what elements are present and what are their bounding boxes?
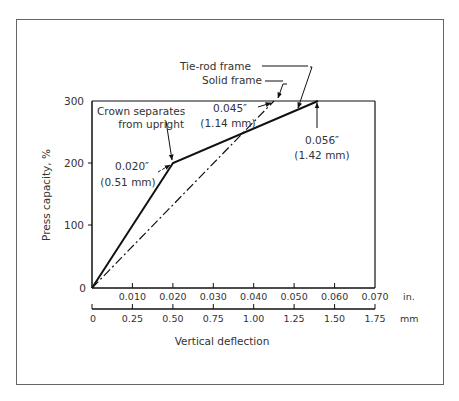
svg-text:0.020: 0.020 bbox=[159, 291, 186, 302]
svg-text:0.010: 0.010 bbox=[119, 291, 146, 302]
svg-text:1.50: 1.50 bbox=[324, 313, 345, 324]
svg-text:0.060: 0.060 bbox=[321, 291, 348, 302]
svg-text:0.040: 0.040 bbox=[240, 291, 267, 302]
annotation-045: 0.045″ bbox=[213, 102, 247, 114]
y-tick-100: 100 bbox=[64, 219, 84, 231]
press-deflection-chart: 300 200 100 0 Press capacity, % 0.010 0.… bbox=[0, 0, 459, 401]
svg-text:0.050: 0.050 bbox=[280, 291, 307, 302]
svg-text:0.50: 0.50 bbox=[162, 313, 183, 324]
svg-text:0.25: 0.25 bbox=[122, 313, 143, 324]
svg-text:1.00: 1.00 bbox=[243, 313, 264, 324]
annotation-045-mm: (1.14 mm) bbox=[200, 117, 255, 129]
svg-text:1.25: 1.25 bbox=[284, 313, 305, 324]
unit-mm: mm bbox=[400, 313, 419, 324]
y-tick-0: 0 bbox=[79, 282, 86, 294]
x-tick-labels-in: 0.010 0.020 0.030 0.040 0.050 0.060 0.07… bbox=[119, 291, 389, 302]
annotation-056-mm: (1.42 mm) bbox=[294, 149, 349, 161]
svg-text:0: 0 bbox=[90, 313, 96, 324]
svg-text:0.030: 0.030 bbox=[200, 291, 227, 302]
y-tick-300: 300 bbox=[64, 95, 84, 107]
y-axis-label: Press capacity, % bbox=[40, 149, 52, 241]
annotation-crown-1: Crown separates bbox=[97, 105, 185, 117]
plot-area bbox=[88, 101, 375, 309]
svg-text:0.75: 0.75 bbox=[203, 313, 224, 324]
unit-in: in. bbox=[403, 291, 415, 302]
label-tie-rod-frame: Tie-rod frame bbox=[179, 60, 251, 72]
x-axis-label: Vertical deflection bbox=[175, 335, 270, 347]
svg-text:1.75: 1.75 bbox=[364, 313, 385, 324]
annotation-020-mm: (0.51 mm) bbox=[100, 176, 155, 188]
x-tick-labels-mm: 0 0.25 0.50 0.75 1.00 1.25 1.50 1.75 bbox=[90, 313, 386, 324]
label-solid-frame: Solid frame bbox=[202, 74, 262, 86]
y-tick-200: 200 bbox=[64, 157, 84, 169]
svg-text:0.070: 0.070 bbox=[361, 291, 388, 302]
annotation-crown-2: from upright bbox=[118, 118, 184, 130]
annotation-020: 0.020″ bbox=[115, 160, 149, 172]
annotation-056: 0.056″ bbox=[305, 134, 339, 146]
